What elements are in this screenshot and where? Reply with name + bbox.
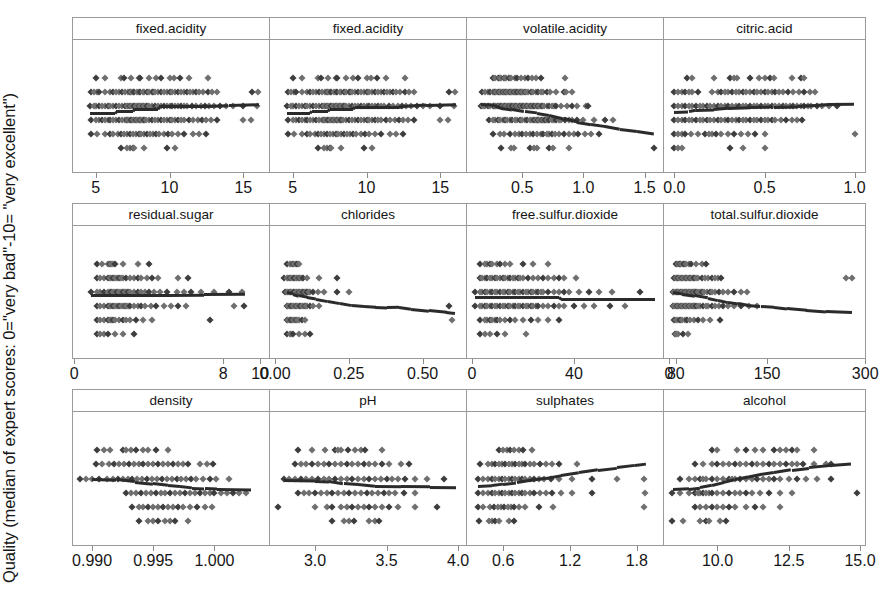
data-point [752,131,759,138]
panel-residual-sugar[interactable]: residual.sugar246810 [72,203,270,359]
data-point [329,503,336,510]
data-point [613,475,620,482]
data-point [527,317,534,324]
trend-line-segment [773,306,786,310]
panel-fixed-acidity[interactable]: fixed.acidity [269,17,467,173]
trend-line-segment [634,463,646,467]
panel-volatile-acidity[interactable]: volatile.acidity [466,17,664,173]
data-point [486,331,493,338]
trend-line-segment [428,309,446,314]
panel-strip-label: total.sulfur.dioxide [664,204,865,226]
plot-area [664,40,865,172]
data-point [794,447,801,454]
data-point [240,116,247,123]
data-point [400,131,407,138]
x-tick-mark [855,173,856,178]
trend-line-segment [674,110,688,113]
panel-strip-label: residual.sugar [73,204,269,226]
x-axis: 51015510150.51.01.50.00.51.0 [72,173,866,203]
trend-line-segment [340,302,352,307]
x-tick-label: 0.990 [72,552,112,570]
data-point [489,131,496,138]
data-point [345,288,352,295]
x-tick-label: 0.0 [663,179,685,197]
x-tick-label: 15.0 [844,552,875,570]
panel-citric-acid[interactable]: citric.acid [663,17,866,173]
x-tick-mark [865,359,866,364]
x-tick-label: 1.8 [626,552,648,570]
data-point [135,517,142,524]
x-tick-mark [275,359,276,364]
x-tick-mark [472,359,473,364]
data-point [437,116,444,123]
x-tick-label: 1.000 [194,552,234,570]
data-point [512,317,519,324]
panel-strip-label: citric.acid [664,18,865,40]
data-point [255,88,262,95]
data-point [560,302,567,309]
data-point [765,489,772,496]
data-point [640,475,647,482]
data-point [609,116,616,123]
x-tick-label: 15 [431,179,449,197]
panel-chlorides[interactable]: chlorides [269,203,467,359]
data-point [376,517,383,524]
data-point [565,145,572,152]
panel-strip-label: sulphates [467,390,663,412]
panel-free-sulfur-dioxide[interactable]: free.sulfur.dioxide [466,203,664,359]
data-point [689,74,696,81]
data-point [854,489,861,496]
x-tick-mark [674,173,675,178]
panel-density[interactable]: density246810 [72,389,270,546]
trend-line-segment [590,123,605,128]
trend-line-segment [363,305,375,309]
data-point [760,447,767,454]
data-point [400,489,407,496]
data-point [761,131,768,138]
trend-line-segment [344,482,359,486]
x-tick-mark [293,173,294,178]
data-point [519,317,526,324]
data-point [522,503,529,510]
data-point [727,145,734,152]
data-point [596,131,603,138]
data-point [581,302,588,309]
trend-line-segment [774,469,792,475]
panel-alcohol[interactable]: alcohol [663,389,866,546]
panel-pH[interactable]: pH [269,389,467,546]
trend-line-segment [492,483,504,487]
data-point [312,503,319,510]
data-point [354,74,361,81]
data-point [298,74,305,81]
trend-line-segment [429,486,455,489]
x-tick-label: 1.0 [843,179,865,197]
data-point [119,260,126,267]
data-point [141,145,148,152]
trend-line-segment [711,481,723,487]
x-tick-label: 0 [468,365,477,383]
data-point [788,74,795,81]
trend-line-segment [217,488,251,491]
x-tick-mark [860,546,861,551]
data-point [570,302,577,309]
x-tick-label: 1.0 [572,179,594,197]
data-point [175,302,182,309]
panel-row: residual.sugar246810chloridesfree.sulfur… [72,203,866,359]
trend-line-segment [92,478,117,482]
plot-area: 246810 [73,40,269,172]
panel-sulphates[interactable]: sulphates [466,389,664,546]
data-point [289,74,296,81]
data-point [748,489,755,496]
trend-line-segment [284,479,316,482]
data-point [338,145,345,152]
data-point [714,447,721,454]
trend-line-segment [204,293,245,296]
x-tick-label: 0 [665,365,674,383]
data-point [240,302,247,309]
x-tick-label: 1.5 [633,179,655,197]
x-tick-label: 0.6 [492,552,514,570]
panel-total-sulfur-dioxide[interactable]: total.sulfur.dioxide [663,203,866,359]
panel-fixed-acidity[interactable]: fixed.acidity246810 [72,17,270,173]
data-point [196,461,203,468]
data-point [545,317,552,324]
